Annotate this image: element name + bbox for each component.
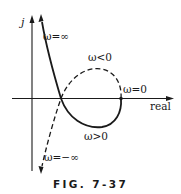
arrow-up-icon: [30, 15, 35, 23]
omega-zero-point: [119, 97, 123, 101]
omega-infinity-label: ω=∞: [43, 31, 69, 42]
omega-zero-label: ω=0: [123, 84, 147, 95]
arrow-down-icon: [39, 166, 44, 174]
nyquist-diagram: [0, 0, 181, 194]
omega-negative-label: ω<0: [88, 52, 112, 63]
real-axis-label: real: [150, 101, 171, 112]
omega-neg-infinity-label: ω=−∞: [44, 152, 79, 163]
imaginary-axis: [30, 15, 35, 171]
omega-positive-label: ω>0: [84, 131, 108, 142]
imaginary-axis-label: j: [21, 17, 24, 28]
arrow-up-icon: [39, 14, 44, 22]
figure-caption: FIG. 7-37: [0, 178, 181, 190]
